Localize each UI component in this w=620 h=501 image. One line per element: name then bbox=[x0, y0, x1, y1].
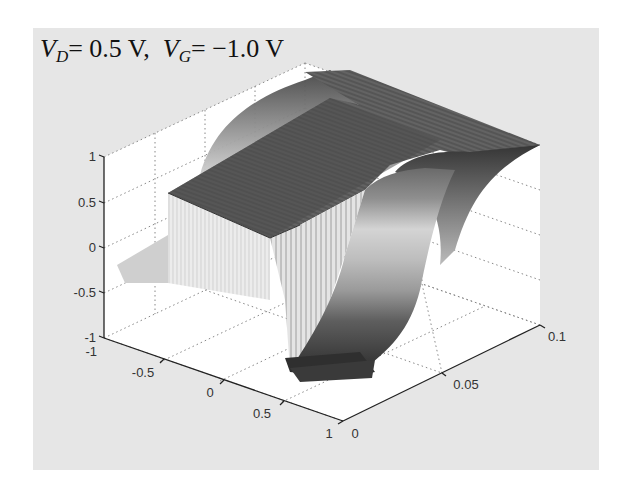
y-tick-0.1: 0.1 bbox=[548, 329, 566, 344]
y-tick-0: 0 bbox=[351, 426, 358, 441]
z-tick-1: 1 bbox=[89, 149, 96, 164]
x-tick-1: 1 bbox=[325, 426, 332, 441]
z-tick-0: 0 bbox=[89, 240, 96, 255]
x-tick-neg1: -1 bbox=[85, 344, 97, 359]
z-tick-neg0.5: -0.5 bbox=[74, 285, 96, 300]
z-tick-0.5: 0.5 bbox=[78, 195, 96, 210]
z-tick-labels: 1 0.5 0 -0.5 -1 bbox=[74, 149, 96, 345]
x-tick-0.5: 0.5 bbox=[253, 406, 271, 421]
x-tick-0: 0 bbox=[206, 385, 213, 400]
z-tick-neg1: -1 bbox=[84, 330, 96, 345]
surface-plot: 1 0.5 0 -0.5 -1 -1 -0.5 0 0.5 1 0 0.05 0… bbox=[0, 0, 620, 501]
y-tick-0.05: 0.05 bbox=[453, 377, 478, 392]
x-tick-neg0.5: -0.5 bbox=[132, 365, 154, 380]
